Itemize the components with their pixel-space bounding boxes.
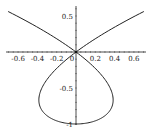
y-tick-label: -0.5 (60, 85, 74, 93)
y-tick-label: -1 (66, 121, 73, 129)
x-tick-label: -0.6 (11, 55, 25, 63)
x-tick-label: 0.6 (128, 55, 140, 63)
origin-crossing-point (75, 51, 78, 54)
x-tick-label: -0.2 (50, 55, 64, 63)
x-tick-label: -0.4 (31, 55, 45, 63)
x-tick-label: 0.2 (90, 55, 101, 63)
y-axis-ticks: 0.5-0.5-1 (60, 13, 74, 129)
chart: -0.6-0.4-0.200.20.40.6 0.5-0.5-1 (0, 0, 152, 134)
axes: -0.6-0.4-0.200.20.40.6 0.5-0.5-1 (6, 6, 146, 129)
x-tick-label: 0.4 (109, 55, 121, 63)
y-tick-label: 0.5 (62, 13, 73, 21)
